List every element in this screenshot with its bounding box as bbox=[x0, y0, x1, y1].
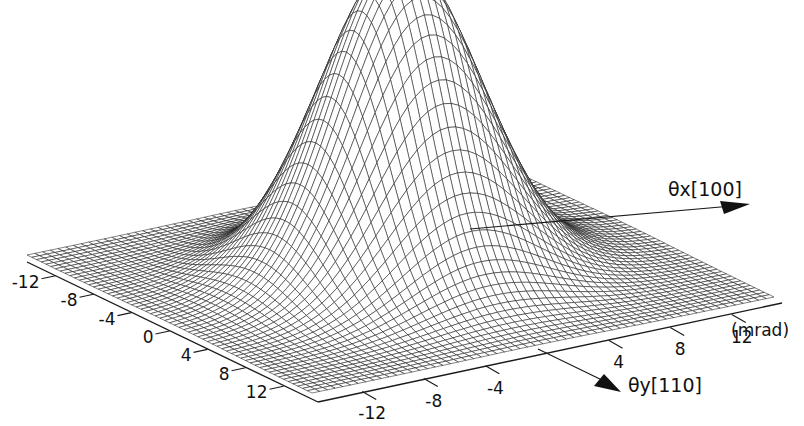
x-tick-mark bbox=[194, 349, 208, 352]
y-tick-mark bbox=[362, 391, 376, 399]
x-tick-label: -4 bbox=[99, 309, 116, 329]
y-tick-mark bbox=[609, 340, 623, 348]
theta-y-arrowhead-icon bbox=[594, 374, 621, 392]
wireframe-mesh bbox=[27, 0, 774, 393]
y-tick-label: -12 bbox=[358, 403, 386, 423]
x-tick-label: 4 bbox=[181, 345, 192, 365]
x-tick-mark bbox=[270, 386, 284, 389]
x-tick-label: 0 bbox=[143, 327, 154, 347]
x-tick-mark bbox=[42, 276, 56, 279]
x-tick-label: -8 bbox=[61, 290, 78, 310]
theta-x-arrowhead-icon bbox=[720, 201, 750, 214]
x-tick-label: 8 bbox=[219, 364, 230, 384]
theta-x-label: θx[100] bbox=[668, 178, 742, 200]
x-tick-label: 12 bbox=[246, 382, 268, 402]
y-tick-label: -8 bbox=[425, 391, 442, 411]
x-tick-mark bbox=[118, 313, 132, 316]
theta-y-arrow-line bbox=[538, 349, 606, 382]
x-tick-mark bbox=[80, 294, 94, 297]
y-tick-mark bbox=[424, 379, 438, 387]
y-tick-mark bbox=[670, 327, 684, 335]
y-tick-mark bbox=[485, 366, 499, 374]
x-tick-mark bbox=[156, 331, 170, 334]
surface-plot-figure: -12-8-404812 -12-8-44812 θx[100] θy[110]… bbox=[0, 0, 804, 426]
y-tick-label: 4 bbox=[613, 352, 624, 372]
unit-label: (mrad) bbox=[731, 320, 789, 340]
x-tick-label: -12 bbox=[12, 272, 40, 292]
y-tick-label: 8 bbox=[675, 339, 686, 359]
surface-plot: -12-8-404812 -12-8-44812 θx[100] θy[110]… bbox=[0, 0, 804, 426]
y-tick-label: -4 bbox=[487, 378, 504, 398]
x-tick-mark bbox=[232, 368, 246, 371]
theta-y-label: θy[110] bbox=[628, 374, 702, 396]
